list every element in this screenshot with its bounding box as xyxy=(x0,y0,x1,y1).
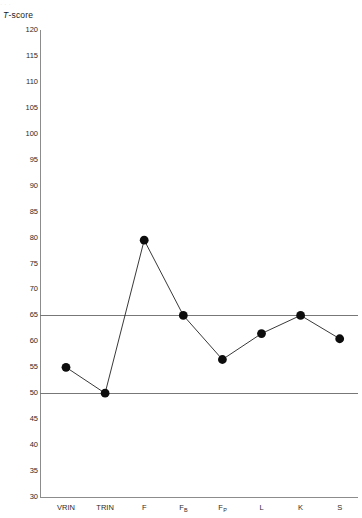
data-point-trin xyxy=(101,389,110,398)
data-point-f xyxy=(140,236,149,245)
data-point-fb xyxy=(179,311,188,320)
chart-container: · · · T-score 12011511010510095908580757… xyxy=(0,0,362,518)
series-markers xyxy=(62,236,345,398)
data-point-vrin xyxy=(62,363,71,372)
data-point-s xyxy=(335,334,344,343)
data-point-fp xyxy=(218,355,227,364)
data-point-k xyxy=(296,311,305,320)
series-plot xyxy=(0,0,362,518)
data-point-l xyxy=(257,329,266,338)
